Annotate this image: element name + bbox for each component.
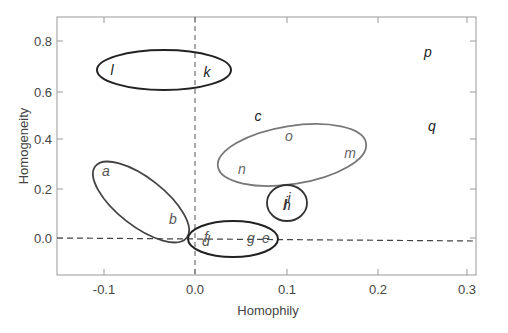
cluster-ellipse-l-k: [97, 50, 231, 90]
point-label-c: c: [255, 108, 262, 124]
x-tick-label: 0.0: [186, 282, 204, 297]
x-tick-label: -0.1: [93, 282, 115, 297]
x-tick-label: 0.3: [458, 282, 476, 297]
x-tick-label: 0.1: [278, 282, 296, 297]
y-tick-label: 0.6: [34, 85, 52, 100]
scatter-chart: -0.1 0.0 0.1 0.2 0.3 0.0 0.2 0.4 0.6 0.8…: [0, 0, 508, 333]
point-label-n: n: [238, 161, 246, 177]
point-label-p: p: [423, 44, 432, 60]
point-label-a: a: [102, 163, 110, 179]
y-axis-title: Homogeneity: [16, 107, 31, 184]
x-tick-label: 0.2: [369, 282, 387, 297]
x-axis-title: Homophily: [237, 303, 299, 318]
x-ticks: [104, 17, 467, 275]
y-tick-label: 0.4: [34, 132, 52, 147]
point-label-k: k: [204, 64, 212, 80]
point-label-g: g: [247, 230, 255, 246]
point-label-o: o: [285, 128, 293, 144]
point-label-e: e: [262, 230, 270, 246]
point-label-m: m: [344, 145, 356, 161]
y-tick-label: 0.2: [34, 182, 52, 197]
point-label-q: q: [428, 118, 436, 134]
y-tick-label: 0.0: [34, 231, 52, 246]
point-label-b: b: [169, 211, 177, 227]
y-tick-label: 0.8: [34, 34, 52, 49]
y-ticks: [57, 41, 476, 238]
cluster-ellipse-a-b: [81, 147, 202, 256]
point-label-l: l: [110, 62, 114, 78]
